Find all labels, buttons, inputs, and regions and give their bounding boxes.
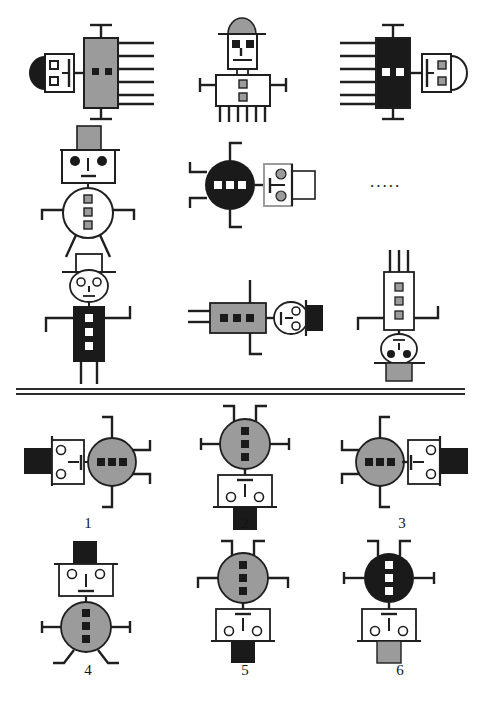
figure-row3-col1	[34, 250, 154, 375]
option-1-figure[interactable]	[16, 412, 156, 512]
matrix-cell-2-1	[36, 120, 156, 240]
figure-row1-col2	[184, 10, 304, 122]
option-2-drawing[interactable]	[190, 402, 300, 530]
option-4-drawing[interactable]	[32, 538, 142, 663]
option-3-figure[interactable]	[336, 412, 476, 512]
figure-row3-col2	[188, 278, 323, 363]
option-3-drawing[interactable]	[336, 412, 476, 512]
matrix-cell-2-3-missing: .....	[350, 155, 460, 205]
figure-row3-col3	[352, 250, 462, 375]
option-4-figure[interactable]	[32, 538, 142, 663]
option-2-number: 2	[225, 516, 265, 531]
matrix-cell-3-1	[34, 250, 154, 375]
option-4-number: 4	[68, 663, 108, 678]
option-6-number: 6	[380, 663, 420, 678]
figure-row2-col2	[180, 138, 315, 233]
figure-row1-col3	[330, 22, 480, 122]
matrix-cell-1-3	[330, 22, 480, 122]
option-5-number: 5	[225, 663, 265, 678]
option-6-figure[interactable]	[334, 538, 444, 663]
option-5-drawing[interactable]	[188, 538, 298, 663]
missing-cell-dots: .....	[370, 177, 401, 187]
option-2-figure[interactable]	[190, 402, 300, 530]
option-1-drawing[interactable]	[16, 412, 156, 512]
matrix-cell-1-1	[14, 22, 164, 122]
option-6-drawing[interactable]	[334, 538, 444, 663]
puzzle-page: .....	[0, 0, 481, 701]
matrix-cell-1-2	[184, 10, 304, 122]
matrix-cell-3-2	[188, 278, 323, 363]
figure-row2-col1	[36, 120, 156, 240]
matrix-cell-2-2	[180, 138, 315, 233]
figure-row1-col1	[14, 22, 164, 122]
option-1-number: 1	[68, 516, 108, 531]
matrix-cell-3-3	[352, 250, 462, 375]
section-divider-top	[16, 388, 465, 390]
option-5-figure[interactable]	[188, 538, 298, 663]
option-3-number: 3	[382, 516, 422, 531]
section-divider-bottom	[16, 393, 465, 395]
